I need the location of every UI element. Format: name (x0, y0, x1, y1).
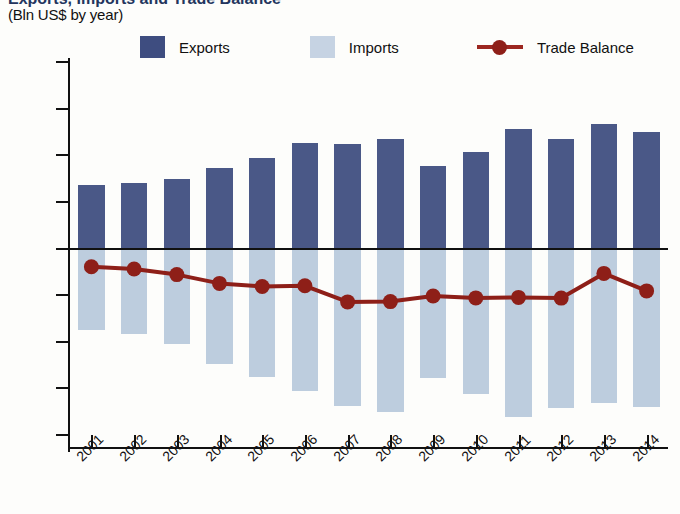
zero-baseline (68, 248, 668, 250)
bar-imports (463, 249, 489, 395)
y-axis: 8006004002000−200−400−600−800 (0, 0, 78, 514)
bar-exports (206, 168, 232, 248)
bar-imports (334, 249, 360, 407)
y-axis-tick (56, 201, 68, 203)
bar-imports (249, 249, 275, 378)
y-axis-tick (56, 61, 68, 63)
bar-exports (548, 139, 574, 249)
bar-imports (591, 249, 617, 403)
bar-exports (633, 132, 659, 249)
bar-imports (633, 249, 659, 408)
y-axis-line (68, 58, 70, 452)
bar-imports (420, 249, 446, 379)
bar-exports (164, 179, 190, 249)
y-axis-tick (56, 294, 68, 296)
bar-imports (206, 249, 232, 364)
x-axis-label: 2004 (202, 431, 235, 464)
x-axis-label: 2014 (629, 431, 662, 464)
x-axis-label: 2011 (501, 432, 534, 465)
y-axis-tick (56, 108, 68, 110)
bar-exports (121, 183, 147, 248)
y-axis-tick (56, 387, 68, 389)
bar-exports (377, 139, 403, 249)
bar-exports (591, 124, 617, 249)
bar-imports (121, 249, 147, 335)
bar-imports (548, 249, 574, 408)
bar-exports (334, 144, 360, 248)
bar-imports (505, 249, 531, 417)
y-axis-tick (56, 248, 68, 250)
bar-exports (505, 129, 531, 248)
y-axis-tick (56, 434, 68, 436)
bar-exports (78, 185, 104, 248)
y-axis-tick (56, 341, 68, 343)
bar-imports (377, 249, 403, 412)
bar-imports (292, 249, 318, 392)
bar-exports (420, 166, 446, 248)
x-axis-line (70, 447, 668, 449)
bar-imports (78, 249, 104, 331)
bar-exports (249, 158, 275, 249)
y-axis-tick (56, 154, 68, 156)
bar-imports (164, 249, 190, 345)
chart-plot-area: 8006004002000−200−400−600−800 2001200220… (0, 0, 680, 514)
bar-exports (292, 143, 318, 248)
bar-exports (463, 152, 489, 248)
x-axis-label: 2007 (330, 431, 363, 464)
